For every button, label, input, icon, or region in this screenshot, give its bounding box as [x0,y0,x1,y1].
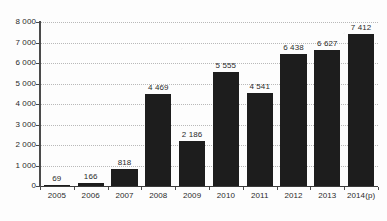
bar-slot: 2 186 [179,22,205,186]
bar-slot: 818 [111,22,137,186]
x-axis-tick-mark [344,187,345,190]
bar-slot: 4 469 [145,22,171,186]
bar-2008 [145,94,171,186]
bar-2010 [213,72,239,186]
x-axis-tick-mark [141,187,142,190]
x-axis-tick-label: 2005 [48,192,66,200]
bar-2009 [179,141,205,186]
x-axis-tick-mark [243,187,244,190]
x-axis-tick-label: 2006 [82,192,100,200]
bar-2013 [314,50,340,186]
bar-slot: 4 541 [247,22,273,186]
bar-value-label: 69 [52,175,61,183]
bar-slot: 69 [44,22,70,186]
x-axis-tick-label: 2008 [149,192,167,200]
bar-value-label: 6 438 [283,44,304,52]
bar-slot: 5 555 [213,22,239,186]
bar-slot: 7 412 [348,22,374,186]
x-axis-tick-mark [74,187,75,190]
x-axis-tick-label: 2007 [115,192,133,200]
x-axis-tick-mark [378,187,379,190]
plot-area: 691668184 4692 1865 5554 5416 4386 6277 … [40,22,378,186]
x-axis-tick-label: 2012 [284,192,302,200]
x-axis-tick-mark [108,187,109,190]
bar-value-label: 4 469 [148,84,169,92]
y-axis-line [39,21,41,187]
bar-value-label: 166 [84,173,98,181]
y-axis-tick-labels: 01 0002 0003 0004 0005 0006 0007 0008 00… [0,0,36,221]
y-axis-tick-label: 7 000 [2,39,36,47]
bar-value-label: 4 541 [249,83,270,91]
bar-2007 [111,169,137,186]
x-axis-tick-label: 2009 [183,192,201,200]
y-axis-tick-label: 8 000 [2,18,36,26]
x-axis-tick-label: 2010 [217,192,235,200]
bar-value-label: 5 555 [216,62,237,70]
x-axis-tick-label: 2014(p) [347,192,375,200]
x-axis-tick-mark [209,187,210,190]
bar-slot: 6 627 [314,22,340,186]
x-axis-tick-mark [277,187,278,190]
y-axis-tick-label: 4 000 [2,100,36,108]
y-axis-tick-label: 2 000 [2,141,36,149]
bar-2005 [44,185,70,186]
bar-slot: 6 438 [280,22,306,186]
bar-chart: 01 0002 0003 0004 0005 0006 0007 0008 00… [0,0,387,221]
x-axis: 2005200620072008200920102011201220132014… [40,187,378,211]
x-axis-tick-label: 2013 [318,192,336,200]
y-axis-tick-label: 5 000 [2,80,36,88]
bar-2012 [280,54,306,186]
bar-value-label: 2 186 [182,131,203,139]
x-axis-tick-mark [310,187,311,190]
bar-slot: 166 [78,22,104,186]
x-axis-tick-label: 2011 [251,192,269,200]
bar-2006 [78,183,104,186]
bar-value-label: 6 627 [317,40,338,48]
x-axis-tick-mark [40,187,41,190]
bar-2014p [348,34,374,186]
bar-value-label: 7 412 [351,24,372,32]
bar-2011 [247,93,273,186]
y-axis-tick-label: 0 [2,182,36,190]
y-axis-tick-label: 6 000 [2,59,36,67]
x-axis-tick-mark [175,187,176,190]
bar-value-label: 818 [118,159,132,167]
y-axis-tick-label: 1 000 [2,162,36,170]
y-axis-tick-label: 3 000 [2,121,36,129]
